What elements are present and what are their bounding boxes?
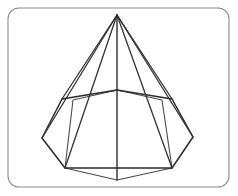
pyramid-line-drawing [0, 0, 238, 196]
rounded-rectangle-border [8, 8, 229, 187]
figure-container [0, 0, 238, 196]
